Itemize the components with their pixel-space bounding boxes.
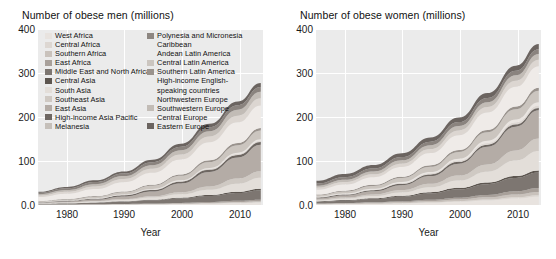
legend-item-label: East Asia [55,104,86,113]
legend-item-label: Southwestern Europe [157,104,229,113]
legend-swatch [147,60,154,66]
legend-item: Caribbean [147,40,251,49]
figure-two-panel-stacked-area: Number of obese men (millions) 400 300 2… [0,0,556,259]
legend-swatch [45,51,52,57]
y-tick-label: 200 [279,112,313,123]
legend-item-label: speaking countries [157,86,220,95]
legend-swatch [45,60,52,66]
x-tick-label: 1990 [391,209,413,220]
legend-item-label: Southern Africa [55,49,106,58]
legend-swatch [147,105,154,111]
x-axis-title-women: Year [316,227,541,238]
legend-column-b: Polynesia and MicronesiaCaribbeanAndean … [147,31,251,131]
legend-item: Southern Latin America [147,67,251,76]
legend-item-label: Central Latin America [157,58,229,67]
panel-obese-women: Number of obese women (millions) 400 300… [278,0,556,259]
legend-item: speaking countries [147,86,251,95]
legend-swatch [147,33,154,39]
legend-item: Middle East and North Africa [45,67,138,76]
legend-item-label: Southern Latin America [157,67,235,76]
y-tick-label: 100 [1,156,35,167]
x-tick-label: 1990 [113,209,135,220]
legend-swatch [45,114,52,120]
x-tick-label: 2000 [171,209,193,220]
legend-item-label: Southeast Asia [55,95,105,104]
legend-swatch [147,69,154,75]
legend-item: High-income English- [147,76,251,85]
legend-item: Melanesia [45,122,138,131]
y-tick-label: 400 [279,24,313,35]
legend-item-label: Melanesia [55,122,89,131]
legend-item: Central Europe [147,113,251,122]
legend-item: Polynesia and Micronesia [147,31,251,40]
legend-item-label: East Africa [55,58,91,67]
plot-area-women [316,29,541,205]
y-tick-label: 300 [279,68,313,79]
legend-item: Central Africa [45,40,138,49]
legend-swatch [45,42,52,48]
y-tick-label: 0.0 [279,200,313,211]
legend-item: Southeast Asia [45,95,138,104]
legend-item: Andean Latin America [147,49,251,58]
legend-item-label: High-income Asia Pacific [55,113,138,122]
legend-item: Eastern Europe [147,122,251,131]
legend-item-label: South Asia [55,86,91,95]
legend-swatch [45,87,52,93]
y-tick-label: 300 [1,68,35,79]
legend-item: West Africa [45,31,138,40]
legend-swatch [45,105,52,111]
legend-item-label: Caribbean [157,40,192,49]
legend-swatch [45,78,52,84]
page-title-men: Number of obese men (millions) [22,9,174,21]
legend-item: High-income Asia Pacific [45,113,138,122]
legend-item: Central Asia [45,76,138,85]
legend-item-label: Central Africa [55,40,100,49]
legend-swatch [45,96,52,102]
y-axis-men: 400 300 200 100 0.0 [0,29,35,205]
y-tick-label: 0.0 [1,200,35,211]
y-tick-label: 400 [1,24,35,35]
x-tick-label: 2010 [507,209,529,220]
y-tick-label: 200 [1,112,35,123]
legend-swatch [147,42,154,48]
x-axis-women: 1980 1990 2000 2010 [316,209,541,223]
stacked-areas-women [316,29,541,205]
y-axis-women: 400 300 200 100 0.0 [278,29,313,205]
legend-item-label: West Africa [55,31,93,40]
legend-item: Central Latin America [147,58,251,67]
legend-swatch [45,123,52,129]
legend-swatch [147,51,154,57]
x-axis-men: 1980 1990 2000 2010 [38,209,263,223]
legend-swatch [45,33,52,39]
legend-swatch [147,87,154,93]
legend-item: East Asia [45,104,138,113]
legend-item-label: Central Europe [157,113,207,122]
legend: West AfricaCentral AfricaSouthern Africa… [45,31,251,131]
legend-item-label: Northwestern Europe [157,95,228,104]
x-tick-label: 1980 [334,209,356,220]
legend-item-label: Andean Latin America [157,49,230,58]
x-tick-label: 2010 [229,209,251,220]
y-tick-label: 100 [279,156,313,167]
legend-swatch [45,69,52,75]
legend-item-label: High-income English- [157,76,228,85]
legend-item: Southern Africa [45,49,138,58]
legend-item: South Asia [45,86,138,95]
legend-item: East Africa [45,58,138,67]
legend-swatch [147,123,154,129]
x-tick-label: 2000 [449,209,471,220]
legend-item-label: Central Asia [55,76,95,85]
legend-swatch [147,96,154,102]
x-tick-label: 1980 [56,209,78,220]
legend-item-label: Eastern Europe [157,122,209,131]
legend-item-label: Middle East and North Africa [55,67,150,76]
panel-obese-men: Number of obese men (millions) 400 300 2… [0,0,278,259]
legend-item-label: Polynesia and Micronesia [157,31,242,40]
legend-column-a: West AfricaCentral AfricaSouthern Africa… [45,31,138,131]
legend-swatch [147,114,154,120]
legend-item: Southwestern Europe [147,104,251,113]
page-title-women: Number of obese women (millions) [300,9,465,21]
x-axis-title-men: Year [38,227,263,238]
legend-item: Northwestern Europe [147,95,251,104]
legend-swatch [147,78,154,84]
